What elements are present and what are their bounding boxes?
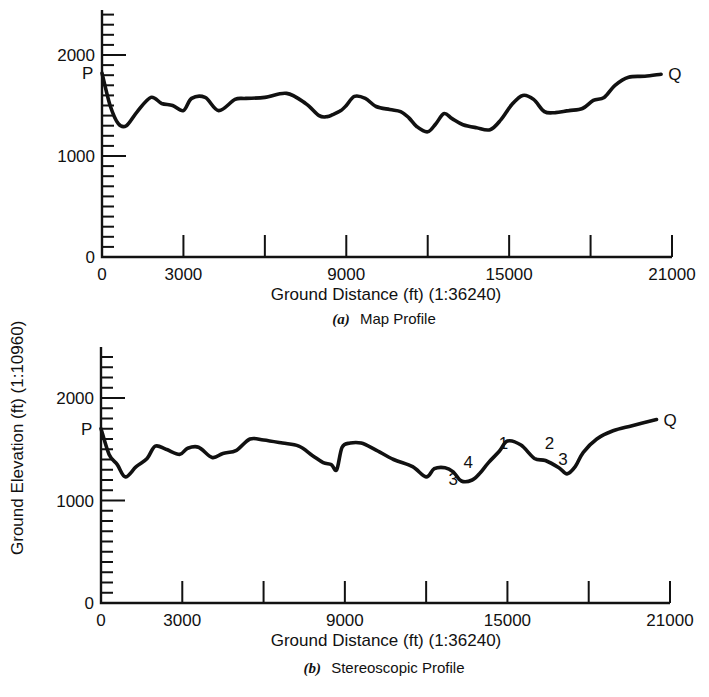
x-tick-label: 9000	[326, 611, 364, 630]
x-tick-label: 15000	[484, 611, 531, 630]
x-tick-label: 0	[96, 611, 105, 630]
y-axis-title: Ground Elevation (ft) (1:10960)	[8, 321, 27, 555]
x-tick-label: 21000	[648, 265, 695, 284]
y-axis-ticks	[101, 357, 125, 603]
y-axis-ticks	[102, 15, 126, 257]
start-point-label: P	[81, 420, 92, 439]
y-tick-label: 1000	[57, 147, 95, 166]
x-tick-label: 21000	[646, 611, 693, 630]
point-annotation: 3	[449, 470, 458, 489]
x-axis-ticks	[183, 235, 672, 257]
figure-canvas: Ground Elevation (ft) (1:10960) 01000200…	[0, 0, 709, 697]
y-tick-label: 2000	[56, 389, 94, 408]
caption: (a) Map Profile	[332, 310, 436, 328]
y-tick-label: 0	[85, 594, 94, 613]
elevation-profile-line	[101, 420, 657, 482]
y-tick-label: 2000	[57, 46, 95, 65]
point-annotation: 1	[499, 434, 508, 453]
x-axis-title: Ground Distance (ft) (1:36240)	[271, 285, 502, 304]
y-tick-label: 1000	[56, 492, 94, 511]
x-tick-label: 15000	[486, 265, 533, 284]
point-annotation: 4	[463, 453, 472, 472]
axis-lines	[102, 10, 672, 257]
x-axis-title: Ground Distance (ft) (1:36240)	[271, 631, 502, 650]
caption-letter: (a)	[332, 311, 350, 328]
axis-lines	[101, 347, 670, 603]
elevation-profile-line	[102, 73, 661, 132]
x-tick-label: 0	[97, 265, 106, 284]
x-tick-label: 3000	[165, 265, 203, 284]
x-tick-labels: 0300090001500021000	[96, 611, 693, 630]
point-annotation: 2	[545, 434, 554, 453]
end-point-label: Q	[668, 65, 681, 84]
x-tick-label: 9000	[327, 265, 365, 284]
end-point-label: Q	[663, 411, 676, 430]
x-tick-label: 3000	[163, 611, 201, 630]
x-tick-labels: 0300090001500021000	[97, 265, 695, 284]
y-tick-label: 0	[86, 248, 95, 267]
x-axis-ticks	[182, 581, 670, 603]
stereoscopic-profile-chart: 010002000 0300090001500021000 P Q 34123 …	[56, 347, 693, 677]
point-annotation: 3	[558, 450, 567, 469]
start-point-label: P	[82, 64, 93, 83]
map-profile-chart: 010002000 0300090001500021000 P Q Ground…	[57, 10, 695, 328]
caption-text: Map Profile	[360, 310, 436, 327]
caption: (b) Stereoscopic Profile	[303, 659, 464, 677]
caption-letter: (b)	[303, 660, 321, 677]
caption-text: Stereoscopic Profile	[331, 659, 464, 676]
